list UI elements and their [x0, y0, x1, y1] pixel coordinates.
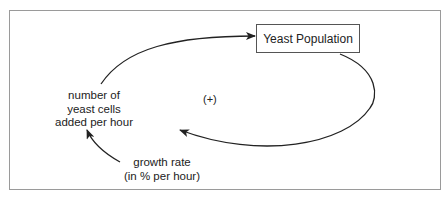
flow-label-line: number of [49, 89, 139, 103]
parameter-label-line: growth rate [112, 156, 212, 170]
arrow-flow-to-stock [101, 36, 255, 84]
loop-polarity: (+) [203, 93, 217, 107]
stock-label: Yeast Population [263, 32, 353, 46]
parameter-label-line: (in % per hour) [112, 170, 212, 184]
stock-yeast-population: Yeast Population [256, 24, 360, 53]
parameter-label: growth rate (in % per hour) [112, 156, 212, 183]
flow-label: number of yeast cells added per hour [49, 89, 139, 130]
flow-label-line: yeast cells [49, 103, 139, 117]
flow-label-line: added per hour [49, 116, 139, 130]
